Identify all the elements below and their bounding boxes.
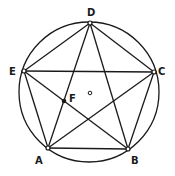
- diagonal-BD: [90, 23, 128, 149]
- vertex-B-marker: [126, 147, 130, 151]
- vertex-D-label: D: [87, 7, 95, 18]
- diagonal-CE: [24, 71, 154, 72]
- diagram-svg: DCBAE F: [0, 0, 175, 176]
- side-AB: [48, 148, 128, 149]
- side-EA: [24, 71, 48, 148]
- vertex-E-label: E: [9, 66, 16, 77]
- vertex-A-label: A: [35, 155, 43, 166]
- vertex-C-label: C: [158, 66, 165, 77]
- diagonal-AD: [48, 23, 90, 148]
- vertex-A-marker: [46, 146, 50, 150]
- vertex-B-label: B: [131, 155, 139, 166]
- diagonal-AC: [48, 72, 154, 148]
- side-BC: [128, 72, 154, 149]
- point-f-label: F: [69, 93, 76, 104]
- vertex-D-marker: [88, 21, 92, 25]
- vertex-E-marker: [22, 69, 26, 73]
- vertex-C-marker: [152, 70, 156, 74]
- pentagon-diagram: DCBAE F: [0, 0, 175, 176]
- point-f-marker: [62, 99, 67, 104]
- diagonal-BE: [24, 71, 128, 149]
- center-marker: [88, 91, 92, 95]
